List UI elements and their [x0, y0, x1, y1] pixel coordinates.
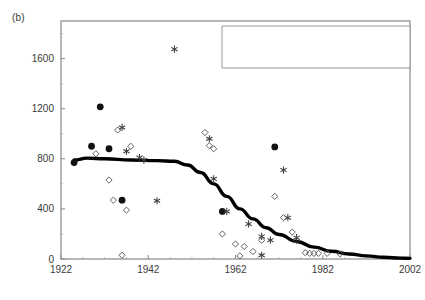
point-unknown [280, 215, 286, 221]
point-unknown [115, 127, 121, 133]
y-tick-label: 1200 [32, 103, 55, 114]
point-unknown [219, 231, 225, 237]
point-unknown [315, 250, 321, 256]
y-tick-label: 400 [37, 203, 54, 214]
point-other [245, 220, 251, 227]
point-unknown [250, 248, 256, 254]
point-unknown [202, 129, 208, 135]
point-unknown [237, 253, 243, 259]
point-hunted [119, 197, 126, 204]
series-open-diamond [93, 127, 343, 259]
x-tick-label: 1942 [137, 264, 160, 275]
point-unknown [128, 143, 134, 149]
data-points [71, 46, 344, 259]
point-unknown [241, 243, 247, 249]
point-unknown [110, 197, 116, 203]
point-unknown [93, 151, 99, 157]
point-other [206, 135, 212, 142]
point-hunted [71, 159, 78, 166]
point-hunted [106, 145, 113, 152]
point-unknown [106, 177, 112, 183]
point-other [280, 166, 286, 173]
point-unknown [119, 252, 125, 258]
point-unknown [232, 241, 238, 247]
point-hunted [219, 208, 226, 215]
trend-curve [74, 158, 410, 258]
point-unknown [289, 229, 295, 235]
trend-line [74, 158, 410, 258]
point-hunted [88, 143, 95, 150]
x-tick-label: 1962 [224, 264, 247, 275]
x-tick-label: 2002 [399, 264, 422, 275]
point-other [171, 46, 177, 53]
figure-panel: (b) 19221942196219822002040080012001600 [0, 0, 425, 300]
y-tick-label: 1600 [32, 53, 55, 64]
x-tick-label: 1922 [50, 264, 73, 275]
scatter-plot: 19221942196219822002040080012001600 [0, 0, 425, 300]
legend-frame [222, 26, 410, 68]
point-other [267, 237, 273, 244]
point-hunted [271, 143, 278, 150]
point-other [285, 214, 291, 221]
point-other [259, 252, 265, 259]
point-unknown [123, 207, 129, 213]
point-other [154, 197, 160, 204]
point-hunted [97, 103, 104, 110]
series-asterisk [119, 46, 300, 259]
point-other [123, 148, 129, 155]
point-other [119, 124, 125, 131]
plot-legend [222, 26, 410, 68]
x-tick-label: 1982 [312, 264, 335, 275]
point-unknown [272, 193, 278, 199]
y-tick-label: 0 [48, 254, 54, 265]
y-tick-label: 800 [37, 153, 54, 164]
point-unknown [311, 250, 317, 256]
